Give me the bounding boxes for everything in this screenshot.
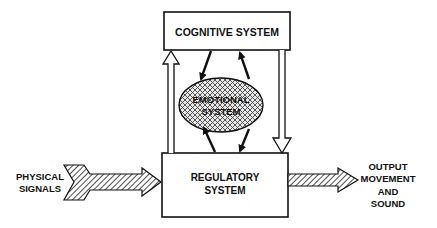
output-hatched-arrow-icon bbox=[288, 168, 358, 192]
output-label-line3: AND bbox=[378, 186, 399, 197]
arrow-emotional-to-cognitive-icon bbox=[240, 53, 249, 79]
input-label-line2: SIGNALS bbox=[19, 183, 61, 194]
regulatory-system-label-line1: REGULATORY bbox=[191, 172, 260, 183]
emotional-system-label-line2: SYSTEM bbox=[201, 106, 240, 117]
hollow-arrow-down-icon bbox=[273, 50, 291, 153]
input-label-line1: PHYSICAL bbox=[16, 171, 64, 182]
output-label: OUTPUT MOVEMENT AND SOUND bbox=[361, 161, 416, 209]
diagram-canvas: COGNITIVE SYSTEM REGULATORY SYSTEM EMOTI… bbox=[0, 0, 437, 228]
emotional-system-label-line1: EMOTIONAL bbox=[193, 94, 250, 105]
output-label-line1: OUTPUT bbox=[368, 161, 407, 172]
regulatory-system-label-line2: SYSTEM bbox=[204, 185, 245, 196]
arrow-emotional-to-regulatory-icon bbox=[240, 129, 249, 151]
output-label-line4: SOUND bbox=[371, 198, 405, 209]
cognitive-system-label: COGNITIVE SYSTEM bbox=[175, 26, 279, 38]
input-label: PHYSICAL SIGNALS bbox=[16, 171, 64, 194]
cognitive-system-node: COGNITIVE SYSTEM bbox=[164, 12, 290, 50]
input-hatched-arrow-icon bbox=[64, 165, 161, 200]
output-label-line2: MOVEMENT bbox=[361, 173, 416, 184]
hollow-arrow-up-icon bbox=[163, 51, 179, 153]
regulatory-system-node: REGULATORY SYSTEM bbox=[162, 153, 288, 217]
emotional-system-node: EMOTIONAL SYSTEM bbox=[179, 78, 263, 132]
arrow-cognitive-to-emotional-icon bbox=[201, 51, 211, 79]
